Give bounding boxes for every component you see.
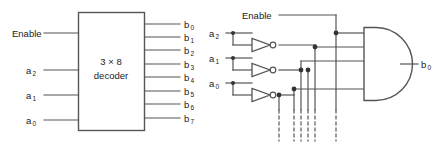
a2-net bbox=[226, 33, 364, 47]
and-gate-b0 bbox=[364, 28, 418, 101]
logic-output-label-b0: b bbox=[421, 59, 426, 70]
input-label-a1-sub: 1 bbox=[33, 95, 37, 102]
logic-label-a1: a bbox=[209, 53, 215, 64]
logic-label-a1-sub: 1 bbox=[216, 58, 220, 65]
output-label-b4: b bbox=[184, 72, 189, 83]
output-label-b1: b bbox=[184, 32, 189, 43]
input-label-a2: a bbox=[26, 65, 32, 76]
output-label-b0: b bbox=[184, 19, 189, 30]
logic-label-a0: a bbox=[209, 78, 215, 89]
input-label-a1: a bbox=[26, 90, 32, 101]
input-label-a0-sub: 0 bbox=[33, 120, 37, 127]
decoder-figure: 3 × 8 decoder Enable a 2 a 1 a 0 b 0 b 1… bbox=[0, 0, 442, 147]
inverter-a2 bbox=[252, 39, 276, 52]
logic-label-a2: a bbox=[209, 28, 215, 39]
a1-net bbox=[226, 58, 364, 70]
output-label-b4-sub: 4 bbox=[191, 77, 195, 84]
output-label-b5: b bbox=[184, 86, 189, 97]
decoder-label-line1: 3 × 8 bbox=[100, 56, 121, 67]
decoder-label-line2: decoder bbox=[94, 70, 128, 81]
output-label-b6: b bbox=[184, 99, 189, 110]
inverter-a0 bbox=[252, 89, 276, 102]
logic-input-labels: Enable a 2 a 1 a 0 bbox=[209, 10, 272, 91]
output-label-b3: b bbox=[184, 59, 189, 70]
continuation-trunks-dashed bbox=[279, 110, 336, 141]
output-label-b6-sub: 6 bbox=[191, 104, 195, 111]
output-label-b2: b bbox=[184, 45, 189, 56]
junction-dots bbox=[231, 31, 338, 98]
circuit-diagram-svg: 3 × 8 decoder Enable a 2 a 1 a 0 b 0 b 1… bbox=[0, 0, 442, 147]
decoder-output-labels: b 0 b 1 b 2 b 3 b 4 b 5 b 6 b 7 bbox=[184, 19, 195, 126]
output-label-b5-sub: 5 bbox=[191, 91, 195, 98]
output-label-b3-sub: 3 bbox=[191, 64, 195, 71]
output-label-b0-sub: 0 bbox=[191, 24, 195, 31]
and-gate-output-label: b 0 bbox=[421, 59, 432, 72]
logic-label-enable: Enable bbox=[242, 10, 272, 21]
decoder-input-wires bbox=[44, 33, 79, 120]
output-label-b7-sub: 7 bbox=[191, 118, 195, 125]
logic-label-a0-sub: 0 bbox=[216, 83, 220, 90]
output-label-b7: b bbox=[184, 113, 189, 124]
logic-output-label-b0-sub: 0 bbox=[428, 64, 432, 71]
decoder-input-labels: Enable a 2 a 1 a 0 bbox=[12, 28, 42, 128]
output-label-b1-sub: 1 bbox=[191, 37, 195, 44]
output-label-b2-sub: 2 bbox=[191, 50, 195, 57]
inverter-a1 bbox=[252, 64, 276, 77]
input-label-a2-sub: 2 bbox=[33, 70, 37, 77]
logic-label-a2-sub: 2 bbox=[216, 33, 220, 40]
decoder-output-wires bbox=[145, 24, 181, 118]
input-label-enable: Enable bbox=[12, 28, 42, 39]
input-label-a0: a bbox=[26, 115, 32, 126]
enable-net bbox=[279, 15, 364, 33]
